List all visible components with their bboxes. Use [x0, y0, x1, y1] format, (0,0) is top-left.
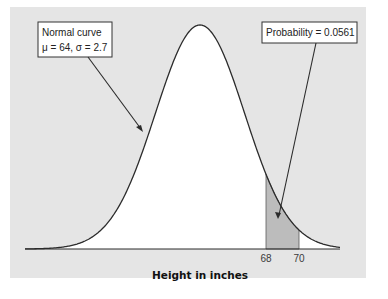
probability-annotation-text: Probability = 0.0561 [266, 27, 355, 38]
curve-annotation-title: Normal curve [42, 27, 102, 38]
x-tick-label-68: 68 [260, 253, 272, 264]
normal-distribution-chart: 68 70 Height in inches Normal curve μ = … [0, 0, 388, 299]
x-tick-label-70: 70 [293, 253, 305, 264]
curve-annotation-params: μ = 64, σ = 2.7 [42, 42, 108, 53]
x-axis-label: Height in inches [152, 269, 248, 281]
